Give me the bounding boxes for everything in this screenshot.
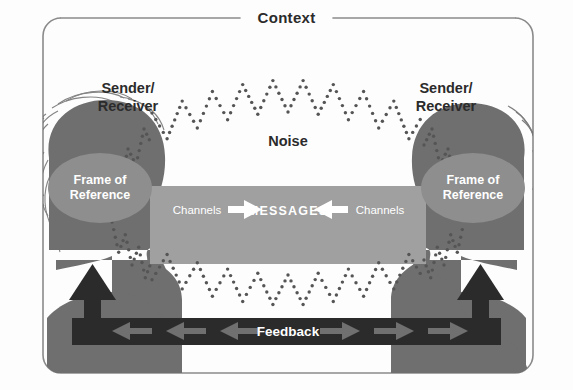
message-band	[150, 186, 426, 264]
diagram-canvas: Context	[0, 0, 573, 390]
right-role-label-line1: Sender/	[419, 80, 472, 96]
feedback-label: Feedback	[257, 324, 320, 339]
left-frame-of-reference-line2: Reference	[70, 188, 130, 202]
left-frame-of-reference-line1: Frame of	[74, 173, 128, 187]
left-channel-label: Channels	[173, 204, 222, 216]
messages-label: MESSAGES	[248, 204, 328, 218]
context-label: Context	[258, 9, 316, 26]
right-frame-of-reference-line1: Frame of	[447, 173, 501, 187]
left-role-label-line1: Sender/	[101, 80, 154, 96]
right-frame-of-reference-line2: Reference	[443, 188, 503, 202]
left-role-label-line2: Receiver	[98, 98, 159, 114]
left-frame-of-reference: Frame of Reference	[48, 153, 152, 223]
right-role-label-line2: Receiver	[416, 98, 477, 114]
right-frame-of-reference: Frame of Reference	[421, 153, 525, 223]
right-channel-label: Channels	[356, 204, 405, 216]
noise-label: Noise	[268, 133, 308, 149]
